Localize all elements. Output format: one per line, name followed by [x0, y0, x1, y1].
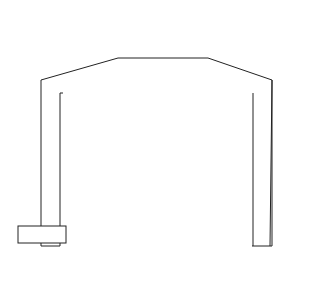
cap-flange-left — [18, 226, 66, 243]
plastic-cap — [41, 58, 272, 246]
electrode-diagram — [0, 0, 322, 304]
